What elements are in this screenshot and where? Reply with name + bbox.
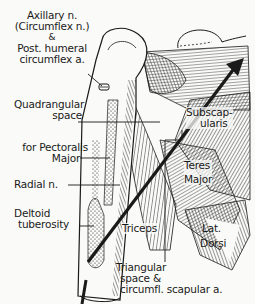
label-teres-major: Teres Major <box>184 160 212 185</box>
label-line: ularis <box>186 118 233 129</box>
label-triceps: Triceps <box>122 223 157 234</box>
acromion-outline <box>178 30 246 48</box>
label-line: Lat. <box>200 223 226 234</box>
label-line: Major <box>184 174 212 185</box>
label-line: Dorsi <box>200 238 226 249</box>
label-deltoid-tuberosity: Deltoid tuberosity <box>14 208 69 230</box>
label-quadrangular-space: Quadrangular space <box>8 99 84 121</box>
label-line: Triceps <box>122 223 157 234</box>
label-line: Radial n. <box>14 179 58 190</box>
label-line: circumfl. scapular a. <box>116 284 222 295</box>
label-line: Teres <box>184 160 212 171</box>
label-line: space <box>8 110 84 121</box>
label-axillary-nerve: Axillary n. (Circumflex n.) & Post. hume… <box>8 10 96 65</box>
label-lat-dorsi: Lat. Dorsi <box>200 223 226 249</box>
label-line: circumflex a. <box>8 54 96 65</box>
label-radial-nerve: Radial n. <box>14 179 58 190</box>
label-triangular-space: Triangular space & circumfl. scapular a. <box>116 262 222 295</box>
label-pectoralis-major: for Pectoralis Major <box>10 142 88 164</box>
label-subscapularis: Subscap- ularis <box>186 107 233 129</box>
label-line: Major <box>10 153 88 164</box>
label-line: tuberosity <box>14 219 69 230</box>
label-line: (Circumflex n.) <box>8 21 96 32</box>
